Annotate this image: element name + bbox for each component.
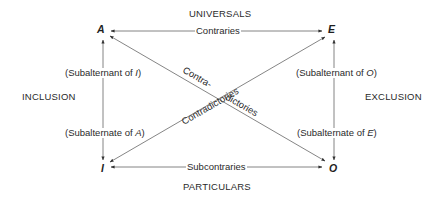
subalternate-of-a-label: (Subalternate of A): [64, 128, 146, 138]
subalternate-of-e-prefix: (Subalternate of: [297, 127, 367, 138]
subalternant-of-o-suffix: ): [374, 67, 377, 78]
subalternant-of-i-suffix: ): [138, 67, 141, 78]
subalternant-of-o-letter: O: [366, 67, 373, 78]
subcontraries-label: Subcontraries: [186, 162, 247, 172]
contraries-label: Contraries: [195, 26, 241, 36]
subalternate-of-a-prefix: (Subalternate of: [65, 127, 135, 138]
corner-o: O: [329, 163, 337, 174]
subalternant-of-o-prefix: (Subalternant of: [296, 67, 366, 78]
corner-e: E: [328, 24, 335, 35]
square-of-opposition-diagram: UNIVERSALS PARTICULARS INCLUSION EXCLUSI…: [0, 0, 434, 197]
subalternate-of-a-suffix: ): [142, 127, 145, 138]
universals-label: UNIVERSALS: [189, 9, 251, 19]
corner-a: A: [97, 24, 105, 35]
subalternant-of-i-prefix: (Subalternant of: [65, 67, 135, 78]
subalternate-of-e-label: (Subalternate of E): [296, 128, 378, 138]
exclusion-label: EXCLUSION: [365, 92, 422, 102]
inclusion-label: INCLUSION: [22, 92, 76, 102]
subalternate-of-e-suffix: ): [374, 127, 377, 138]
subalternant-of-o-label: (Subalternant of O): [295, 68, 378, 78]
subalternant-of-i-label: (Subalternant of I): [64, 68, 142, 78]
corner-i: I: [101, 163, 104, 174]
particulars-label: PARTICULARS: [183, 182, 251, 192]
